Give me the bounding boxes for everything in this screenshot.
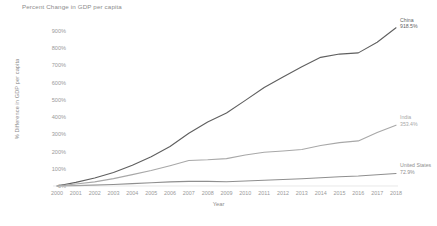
plot-area xyxy=(0,0,437,226)
series-label-china: China918.5% xyxy=(400,17,418,30)
series-label-india: India353.4% xyxy=(400,114,418,127)
series-label-value: 918.5% xyxy=(400,23,418,29)
series-label-united-states: United States72.9% xyxy=(400,162,431,175)
chart-container: Percent Change in GDP per capita % Diffe… xyxy=(0,0,437,226)
series-label-value: 72.9% xyxy=(400,169,431,175)
series-label-name: United States xyxy=(400,162,431,168)
series-line-china xyxy=(57,28,396,186)
series-label-value: 353.4% xyxy=(400,121,418,127)
